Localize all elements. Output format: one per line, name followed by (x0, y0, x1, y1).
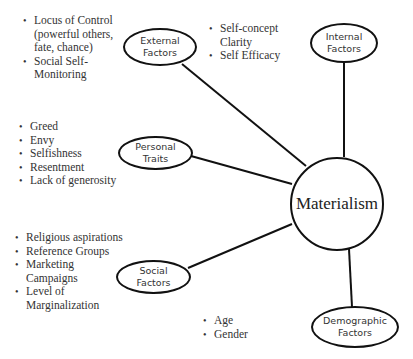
demographic-label-line2: Factors (323, 327, 387, 339)
list-item: Locus of Control (powerful others, fate,… (22, 14, 122, 55)
link-demographic (349, 249, 352, 307)
list-item: Self-concept Clarity (208, 22, 298, 49)
list-item: Reference Groups (14, 245, 129, 259)
list-item: Gender (202, 328, 262, 342)
list-item: Age (202, 314, 262, 328)
demographic-factors-list: Age Gender (202, 314, 262, 341)
link-social (188, 224, 292, 268)
link-external (182, 64, 306, 166)
external-label-line1: External (140, 35, 179, 47)
external-factors-node: External Factors (123, 28, 197, 66)
personal-traits-list: Greed Envy Selfishness Resentment Lack o… (18, 120, 138, 188)
list-item: Resentment (18, 161, 138, 175)
list-item: Lack of generosity (18, 174, 138, 188)
list-item: Level of Marginalization (14, 285, 96, 312)
list-item: Selfishness (18, 147, 138, 161)
list-item: Self Efficacy (208, 49, 298, 63)
social-label-line1: Social (136, 265, 170, 277)
list-item: Greed (18, 120, 138, 134)
internal-label-line1: Internal (326, 31, 363, 43)
personal-label-line1: Personal (135, 141, 175, 153)
materialism-node: Materialism (290, 157, 384, 251)
personal-label-line2: Traits (135, 153, 175, 165)
list-item: Social Self-Monitoring (22, 55, 122, 82)
materialism-label: Materialism (296, 198, 378, 210)
internal-factors-node: Internal Factors (310, 23, 378, 63)
external-factors-list: Locus of Control (powerful others, fate,… (22, 14, 122, 82)
social-factors-list: Religious aspirations Reference Groups M… (14, 231, 129, 312)
list-item: Marketing Campaigns (14, 258, 96, 285)
list-item: Envy (18, 134, 138, 148)
list-item: Religious aspirations (14, 231, 129, 245)
demographic-label-line1: Demographic (323, 315, 387, 327)
internal-factors-list: Self-concept Clarity Self Efficacy (208, 22, 298, 63)
external-label-line2: Factors (140, 47, 179, 59)
internal-label-line2: Factors (326, 43, 363, 55)
link-personal (191, 156, 292, 184)
social-label-line2: Factors (136, 277, 170, 289)
demographic-factors-node: Demographic Factors (311, 306, 399, 348)
